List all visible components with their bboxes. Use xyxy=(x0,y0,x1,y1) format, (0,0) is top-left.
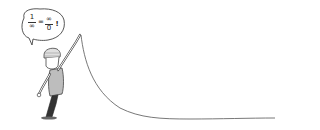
exclamation: ! xyxy=(53,21,61,28)
legs xyxy=(46,95,58,117)
rhs-denominator: 0 xyxy=(45,25,53,32)
lhs-numerator: 1 xyxy=(28,14,36,21)
rhs-numerator: ∞ xyxy=(45,16,53,23)
shirt xyxy=(49,68,64,96)
decay-curve xyxy=(81,35,275,119)
equals-sign: = xyxy=(37,19,45,26)
head xyxy=(46,57,59,69)
lhs-denominator: ∞ xyxy=(28,23,36,30)
foot-shadow xyxy=(41,116,57,119)
bubble-equation: 1 ∞ = ∞ 0 ! xyxy=(28,14,62,38)
